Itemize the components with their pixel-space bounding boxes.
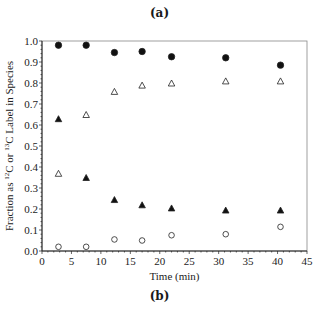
y-axis-title: Fraction as 12C or 13C Label in Species [3,61,15,231]
x-tick-label: 20 [154,255,166,267]
open-circle-point [169,232,175,238]
upper-triangle-point [55,116,62,122]
filled-circle-point [277,62,283,68]
lower-triangle-point [168,205,175,211]
upper-triangle-point [83,112,90,118]
open-circle-point [56,244,62,250]
y-tick-label: 0.8 [24,77,38,89]
lower-triangle-point [83,175,90,181]
y-tick-label: 0.2 [24,203,38,215]
filled-circle-point [83,42,89,48]
y-tick-label: 1.0 [24,35,38,47]
open-circle-point [83,244,89,250]
x-tick-label: 25 [184,255,196,267]
x-tick-label: 15 [125,255,137,267]
upper-triangle-point [111,88,118,94]
x-tick-label: 5 [69,255,75,267]
y-tick-label: 0.5 [24,140,38,152]
filled-circle-point [223,55,229,61]
upper-triangle-point [222,78,229,84]
lower-triangle-point [55,170,62,176]
x-tick-label: 10 [95,255,107,267]
y-tick-label: 0.1 [24,224,38,236]
upper-triangle-point [168,80,175,86]
y-tick-label: 0.0 [24,245,38,257]
open-circle-point [112,237,118,243]
data-points [55,42,284,250]
filled-circle-point [55,42,61,48]
plot-frame [42,41,307,251]
y-tick-label: 0.7 [24,98,38,110]
upper-triangle-point [277,78,284,84]
open-circle-point [278,224,284,230]
lower-triangle-point [222,207,229,213]
axes: 0510152025303540450.00.10.20.30.40.50.60… [24,35,313,267]
filled-circle-point [168,54,174,60]
lower-triangle-point [111,197,118,203]
lower-triangle-point [139,202,146,208]
open-circle-point [223,231,229,237]
filled-circle-point [111,49,117,55]
x-tick-label: 45 [302,255,314,267]
lower-triangle-point [277,207,284,213]
x-tick-label: 35 [243,255,255,267]
y-tick-label: 0.4 [24,161,38,173]
open-circle-point [139,238,145,244]
filled-circle-point [139,48,145,54]
x-axis-title: Time (min) [149,270,199,283]
x-tick-label: 30 [213,255,225,267]
scatter-chart: 0510152025303540450.00.10.20.30.40.50.60… [0,0,319,320]
upper-triangle-point [139,82,146,88]
y-tick-label: 0.9 [24,56,38,68]
y-tick-label: 0.3 [24,182,38,194]
x-tick-label: 40 [272,255,284,267]
x-tick-label: 0 [39,255,45,267]
y-tick-label: 0.6 [24,119,38,131]
